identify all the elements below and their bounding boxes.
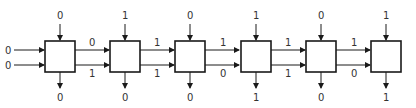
cell-bottom-output-label: 1	[383, 92, 389, 103]
cell-bottom-output-label: 0	[122, 92, 128, 103]
left-input-upper-label: 0	[5, 45, 11, 56]
link-upper-label: 1	[285, 37, 291, 48]
cell-bottom-output-label: 0	[57, 92, 63, 103]
link-upper-label: 1	[220, 37, 226, 48]
link-upper-label: 0	[89, 37, 95, 48]
cell-box	[306, 41, 336, 72]
cell-top-input-label: 0	[187, 10, 193, 21]
link-lower-label: 0	[351, 68, 357, 79]
cell-4: 1 1	[241, 10, 271, 103]
cell-box	[371, 41, 401, 72]
cell-box	[175, 41, 205, 72]
cell-chain-diagram: 0 0 0 0 0 1 1 0 1 1 0 0	[0, 0, 416, 108]
link-lower-label: 1	[89, 68, 95, 79]
link-upper-label: 1	[154, 37, 160, 48]
link-lower-label: 1	[154, 68, 160, 79]
link-1: 0 1	[75, 37, 109, 79]
cell-top-input-label: 1	[383, 10, 389, 21]
cell-bottom-output-label: 0	[187, 92, 193, 103]
link-4: 1 1	[271, 37, 305, 79]
cell-2: 1 0	[110, 10, 140, 103]
link-upper-label: 1	[351, 37, 357, 48]
cell-bottom-output-label: 0	[318, 92, 324, 103]
link-3: 1 0	[205, 37, 239, 79]
cell-6: 1 1	[371, 10, 401, 103]
left-input-lower-label: 0	[5, 60, 11, 71]
cell-box	[45, 41, 75, 72]
cell-top-input-label: 0	[318, 10, 324, 21]
cell-3: 0 0	[175, 10, 205, 103]
cell-top-input-label: 1	[253, 10, 259, 21]
left-inputs: 0 0	[5, 45, 44, 71]
link-lower-label: 0	[220, 68, 226, 79]
cell-1: 0 0	[45, 10, 75, 103]
link-2: 1 1	[140, 37, 174, 79]
cell-box	[241, 41, 271, 72]
cell-top-input-label: 1	[122, 10, 128, 21]
cell-box	[110, 41, 140, 72]
link-lower-label: 1	[285, 68, 291, 79]
cell-5: 0 0	[306, 10, 336, 103]
cell-bottom-output-label: 1	[253, 92, 259, 103]
link-5: 1 0	[336, 37, 370, 79]
cell-top-input-label: 0	[57, 10, 63, 21]
